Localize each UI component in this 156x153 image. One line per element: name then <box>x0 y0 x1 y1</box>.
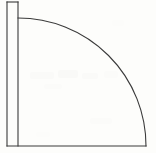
quarter-circle-diagram <box>0 0 156 153</box>
figure-background <box>0 0 156 153</box>
figure-container <box>0 0 156 153</box>
